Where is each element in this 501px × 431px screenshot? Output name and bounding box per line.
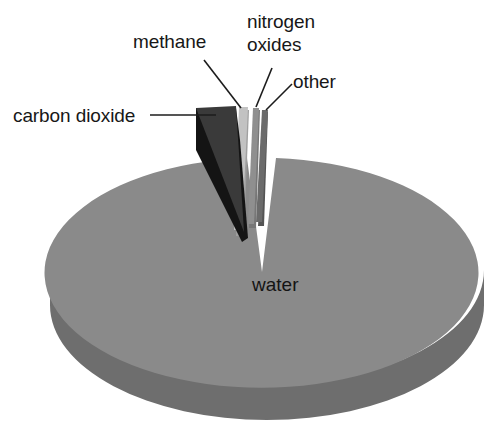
slice-label-nitrogen-oxides-line2: oxides <box>247 33 315 56</box>
slice-label-methane: methane <box>133 30 206 53</box>
slice-label-nitrogen-oxides: nitrogenoxides <box>247 10 315 56</box>
slice-label-carbon-dioxide: carbon dioxide <box>13 104 135 127</box>
pie-chart-figure: carbon dioxide methane nitrogenoxides ot… <box>0 0 501 431</box>
leader-line-nitrogen-oxides <box>256 68 272 107</box>
slice-label-nitrogen-oxides-line1: nitrogen <box>247 11 315 32</box>
leader-line-methane <box>204 60 241 108</box>
slice-label-water: water <box>252 274 298 296</box>
slice-label-other: other <box>293 70 336 93</box>
leader-line-other <box>266 84 292 110</box>
pie-chart-graphic <box>0 0 501 431</box>
